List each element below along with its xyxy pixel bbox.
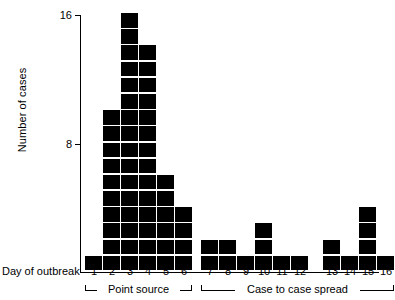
plot-area <box>80 10 379 273</box>
case-block <box>139 45 156 60</box>
case-block <box>139 240 156 255</box>
group-label-1: Point source <box>85 283 192 295</box>
x-tick-label-11: 11 <box>273 265 291 277</box>
case-block <box>139 126 156 141</box>
group-label-2: Case to case spread <box>201 283 394 295</box>
case-block <box>157 207 174 222</box>
case-block <box>121 78 138 93</box>
case-block <box>139 175 156 190</box>
x-tick-label-8: 8 <box>219 265 237 277</box>
case-block <box>121 110 138 125</box>
y-tick-label-16: 16 <box>46 10 72 21</box>
case-block <box>139 191 156 206</box>
x-tick-label-1: 1 <box>85 265 103 277</box>
case-block <box>121 45 138 60</box>
case-block <box>175 207 192 222</box>
case-block <box>121 13 138 28</box>
x-tick-label-13: 13 <box>323 265 341 277</box>
y-tick-label-8: 8 <box>46 139 72 150</box>
case-block <box>103 126 120 141</box>
case-block <box>121 223 138 238</box>
day-column-3 <box>121 13 139 272</box>
day-column-6 <box>175 207 193 272</box>
case-block <box>121 240 138 255</box>
case-block <box>103 175 120 190</box>
x-axis-label: Day of outbreak <box>2 265 80 277</box>
x-tick-label-9: 9 <box>237 265 255 277</box>
group-bracket-2: Case to case spread <box>201 285 394 292</box>
case-block <box>219 240 236 255</box>
case-block <box>157 191 174 206</box>
x-tick-label-4: 4 <box>139 265 157 277</box>
x-tick-label-12: 12 <box>291 265 309 277</box>
x-tick-label-6: 6 <box>175 265 193 277</box>
case-block <box>103 143 120 158</box>
day-column-5 <box>157 175 175 272</box>
case-block <box>139 78 156 93</box>
x-tick-label-5: 5 <box>157 265 175 277</box>
case-block <box>139 223 156 238</box>
case-block <box>103 110 120 125</box>
case-block <box>103 207 120 222</box>
case-block <box>121 94 138 109</box>
case-block <box>323 240 340 255</box>
x-tick-label-7: 7 <box>201 265 219 277</box>
x-tick-label-15: 15 <box>359 265 377 277</box>
case-block <box>139 62 156 77</box>
day-column-15 <box>359 207 377 272</box>
case-block <box>157 240 174 255</box>
case-block <box>359 207 376 222</box>
group-bracket-1: Point source <box>85 285 192 292</box>
day-column-4 <box>139 45 157 272</box>
case-block <box>139 159 156 174</box>
y-axis-label: Number of cases <box>16 40 28 180</box>
case-block <box>201 240 218 255</box>
x-tick-label-14: 14 <box>341 265 359 277</box>
case-block <box>121 191 138 206</box>
case-block <box>121 159 138 174</box>
day-column-2 <box>103 110 121 272</box>
case-block <box>121 207 138 222</box>
case-block <box>255 223 272 238</box>
case-block <box>139 110 156 125</box>
case-block <box>103 159 120 174</box>
x-tick-label-3: 3 <box>121 265 139 277</box>
case-block <box>255 240 272 255</box>
case-block <box>157 223 174 238</box>
case-block <box>139 207 156 222</box>
case-block <box>121 126 138 141</box>
x-tick-label-16: 16 <box>377 265 395 277</box>
case-block <box>359 223 376 238</box>
case-block <box>121 62 138 77</box>
case-block <box>157 175 174 190</box>
x-tick-label-2: 2 <box>103 265 121 277</box>
case-block <box>121 143 138 158</box>
case-block <box>359 240 376 255</box>
case-block <box>103 191 120 206</box>
case-block <box>139 94 156 109</box>
case-block <box>103 223 120 238</box>
case-block <box>175 223 192 238</box>
case-block <box>139 143 156 158</box>
case-block <box>121 29 138 44</box>
x-tick-label-10: 10 <box>255 265 273 277</box>
case-block <box>103 240 120 255</box>
case-block <box>175 240 192 255</box>
case-block <box>121 175 138 190</box>
